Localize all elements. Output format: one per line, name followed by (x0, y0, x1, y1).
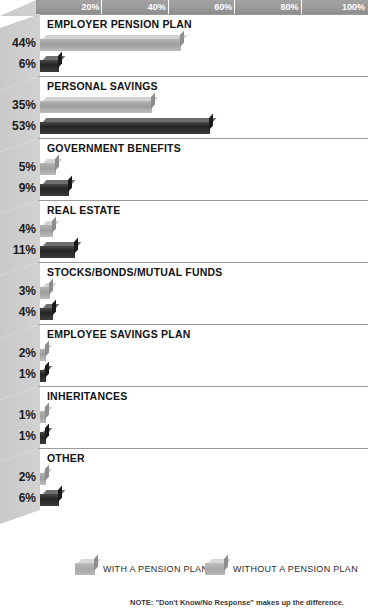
bar-without-pension (40, 246, 75, 258)
bar-row: 9% (0, 180, 368, 198)
chart-group: REAL ESTATE4%11% (0, 200, 368, 262)
bar-row: 3% (0, 283, 368, 301)
chart-group: STOCKS/BONDS/MUTUAL FUNDS3%4% (0, 262, 368, 324)
bar-value-label: 1% (0, 408, 36, 423)
bar-row: 1% (0, 407, 368, 425)
legend-label: WITH A PENSION PLAN (103, 564, 208, 574)
bar-side-face (45, 403, 49, 419)
bar-value-label: 35% (0, 98, 36, 113)
bar-side-face (55, 155, 59, 171)
bar-value-label: 5% (0, 160, 36, 175)
bar-value-label: 1% (0, 429, 36, 444)
axis-tick-100: 100% (302, 0, 368, 14)
bar-front-face (40, 101, 152, 113)
category-label: PERSONAL SAVINGS (47, 80, 158, 92)
bar-row: 4% (0, 221, 368, 239)
chart-group: PERSONAL SAVINGS35%53% (0, 76, 368, 138)
bar-row: 1% (0, 428, 368, 446)
bar-front-face (40, 163, 56, 175)
legend-label: WITHOUT A PENSION PLAN (233, 564, 358, 574)
bar-without-pension (40, 308, 53, 320)
legend-swatch-side-face (224, 555, 228, 571)
bar-row: 6% (0, 490, 368, 508)
bar-front-face (40, 60, 59, 72)
bar-value-label: 1% (0, 367, 36, 382)
bar-value-label: 3% (0, 284, 36, 299)
bar-row: 6% (0, 56, 368, 74)
bar-row: 1% (0, 366, 368, 384)
group-divider (40, 200, 368, 201)
bar-value-label: 4% (0, 305, 36, 320)
bar-value-label: 44% (0, 36, 36, 51)
bar-row: 44% (0, 35, 368, 53)
bar-side-face (49, 279, 53, 295)
bar-side-face (52, 300, 56, 316)
category-label: EMPLOYEE SAVINGS PLAN (47, 328, 190, 340)
bar-front-face (40, 184, 69, 196)
bar-with-pension (40, 39, 181, 51)
bar-side-face (151, 93, 155, 109)
bar-without-pension (40, 432, 46, 444)
group-divider (40, 14, 368, 15)
legend-swatch-side-face (94, 555, 98, 571)
bar-without-pension (40, 122, 210, 134)
bar-row: 53% (0, 118, 368, 136)
bar-side-face (209, 114, 213, 130)
bar-side-face (180, 31, 184, 47)
bar-row: 35% (0, 97, 368, 115)
bar-with-pension (40, 411, 46, 423)
group-divider (40, 386, 368, 387)
bar-with-pension (40, 163, 56, 175)
bar-side-face (52, 217, 56, 233)
category-label: STOCKS/BONDS/MUTUAL FUNDS (47, 266, 223, 278)
bar-without-pension (40, 60, 59, 72)
bar-row: 11% (0, 242, 368, 260)
bar-side-face (45, 465, 49, 481)
bar-front-face (40, 122, 210, 134)
bar-front-face (40, 308, 53, 320)
chart-group: EMPLOYER PENSION PLAN44%6% (0, 14, 368, 76)
bar-value-label: 4% (0, 222, 36, 237)
bar-value-label: 6% (0, 57, 36, 72)
category-label: EMPLOYER PENSION PLAN (47, 18, 192, 30)
category-label: INHERITANCES (47, 390, 127, 402)
legend-swatch (75, 563, 95, 575)
group-divider (40, 324, 368, 325)
bar-front-face (40, 39, 181, 51)
bar-side-face (45, 341, 49, 357)
bar-value-label: 6% (0, 491, 36, 506)
bar-front-face (40, 246, 75, 258)
bar-with-pension (40, 349, 46, 361)
chart-group: INHERITANCES1%1% (0, 386, 368, 448)
axis-tick-60: 60% (169, 0, 235, 14)
group-divider (40, 262, 368, 263)
chart-legend: WITH A PENSION PLANWITHOUT A PENSION PLA… (0, 560, 368, 584)
bar-front-face (40, 225, 53, 237)
bar-side-face (58, 52, 62, 68)
group-divider (40, 138, 368, 139)
bar-side-face (58, 486, 62, 502)
plot-area: EMPLOYER PENSION PLAN44%6%PERSONAL SAVIN… (0, 14, 368, 608)
bar-value-label: 9% (0, 181, 36, 196)
percent-axis: 20%40%60%80%100% (36, 0, 368, 14)
legend-swatch-front-face (205, 563, 225, 575)
chart-group: GOVERNMENT BENEFITS5%9% (0, 138, 368, 200)
axis-tick-40: 40% (102, 0, 168, 14)
group-divider (40, 448, 368, 449)
category-label: GOVERNMENT BENEFITS (47, 142, 181, 154)
axis-tick-20: 20% (36, 0, 102, 14)
bar-value-label: 53% (0, 119, 36, 134)
category-label: REAL ESTATE (47, 204, 120, 216)
axis-tick-80: 80% (235, 0, 301, 14)
bar-value-label: 11% (0, 243, 36, 258)
bar-with-pension (40, 287, 50, 299)
bar-without-pension (40, 184, 69, 196)
bar-row: 2% (0, 345, 368, 363)
group-divider (40, 76, 368, 77)
bar-row: 5% (0, 159, 368, 177)
bar-with-pension (40, 473, 46, 485)
bar-side-face (74, 238, 78, 254)
bar-without-pension (40, 370, 46, 382)
chart-group: EMPLOYEE SAVINGS PLAN2%1% (0, 324, 368, 386)
bar-value-label: 2% (0, 346, 36, 361)
